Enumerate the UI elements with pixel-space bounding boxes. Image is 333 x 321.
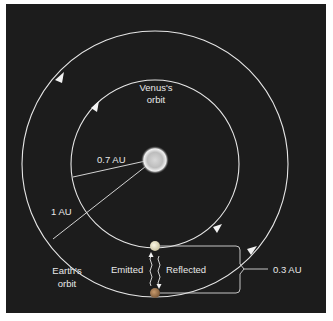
wavy-signal-icon (158, 256, 160, 286)
reflected-label: Reflected (166, 264, 206, 275)
orbit-diagram: Venus's orbit 0.7 AU 1 AU Earth's orbit … (0, 0, 333, 321)
sun-icon (141, 146, 169, 174)
reflected-arrowhead-icon (157, 284, 162, 289)
earth-distance-label: 1 AU (51, 206, 72, 217)
venus-orbit-label-line2: orbit (147, 94, 166, 105)
emitted-label: Emitted (111, 264, 143, 275)
earth-orbit-label-line2: orbit (58, 278, 77, 289)
venus-orbit-label-line1: Venus's (140, 82, 173, 93)
earth-radius-line (53, 163, 150, 239)
separation-label: 0.3 AU (273, 264, 302, 275)
wavy-signal-icon (150, 256, 152, 286)
earth-planet-icon (150, 288, 160, 298)
venus-distance-label: 0.7 AU (97, 154, 126, 165)
venus-planet-icon (150, 241, 160, 251)
earth-orbit-label-line1: Earth's (52, 265, 82, 276)
emitted-arrowhead-icon (149, 252, 154, 257)
